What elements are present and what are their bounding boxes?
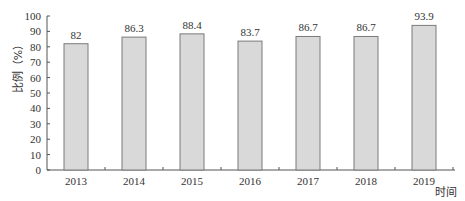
- y-tick-label: 0: [36, 164, 42, 176]
- bar-value-label: 83.7: [240, 26, 260, 38]
- x-tick-label: 2018: [355, 175, 378, 187]
- bar: [412, 25, 436, 170]
- bar-2014: 86.3: [122, 22, 146, 170]
- bar-value-label: 86.7: [298, 21, 318, 33]
- bar: [296, 36, 320, 170]
- y-tick-label: 40: [30, 102, 42, 114]
- bar-2018: 86.7: [354, 21, 378, 170]
- y-tick-label: 100: [25, 10, 42, 22]
- bar-value-label: 82: [71, 29, 82, 41]
- bar-chart: 0102030405060708090100 20132014201520162…: [0, 0, 465, 201]
- bar: [238, 41, 262, 170]
- bar-2013: 82: [64, 29, 88, 170]
- x-tick-label: 2014: [123, 175, 146, 187]
- bar: [122, 37, 146, 170]
- bars: 8286.388.483.786.786.793.9: [64, 10, 436, 170]
- x-tick-label: 2013: [65, 175, 88, 187]
- bar-2017: 86.7: [296, 21, 320, 170]
- bar: [354, 36, 378, 170]
- y-axis-title: 比例（%）: [11, 39, 25, 93]
- y-tick-label: 60: [30, 72, 42, 84]
- bar-2016: 83.7: [238, 26, 262, 170]
- bar: [180, 34, 204, 170]
- x-axis-title: 时间: [435, 186, 457, 199]
- y-tick-label: 90: [30, 25, 42, 37]
- bar-2015: 88.4: [180, 19, 204, 170]
- bar: [64, 44, 88, 170]
- y-tick-label: 50: [30, 87, 42, 99]
- x-tick-label: 2017: [297, 175, 320, 187]
- y-tick-label: 70: [30, 56, 42, 68]
- bar-value-label: 86.7: [356, 21, 376, 33]
- bar-2019: 93.9: [412, 10, 436, 170]
- y-tick-label: 30: [30, 118, 42, 130]
- x-tick-label: 2016: [239, 175, 262, 187]
- y-tick-label: 10: [30, 149, 42, 161]
- y-tick-label: 20: [30, 133, 42, 145]
- bar-value-label: 88.4: [182, 19, 202, 31]
- x-tick-label: 2015: [181, 175, 204, 187]
- y-tick-label: 80: [30, 41, 42, 53]
- bar-value-label: 93.9: [414, 10, 434, 22]
- y-axis: 0102030405060708090100: [25, 10, 51, 176]
- bar-value-label: 86.3: [124, 22, 144, 34]
- x-tick-label: 2019: [413, 175, 436, 187]
